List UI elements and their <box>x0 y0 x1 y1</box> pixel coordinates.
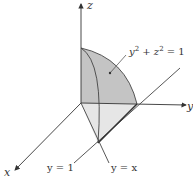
diagram-canvas: z y x y2 + z2 = 1 y = 1 y = x <box>0 0 193 178</box>
surface-label-dot <box>109 72 111 74</box>
x-axis-label: x <box>4 166 11 178</box>
surface-equation-label: y2 + z2 = 1 <box>128 45 185 57</box>
line-y1-label: y = 1 <box>46 162 74 173</box>
line-yx-label: y = x <box>110 162 137 173</box>
y-axis-label: y <box>186 100 193 113</box>
base-region <box>81 103 137 143</box>
z-axis-label: z <box>86 0 93 12</box>
x-axis <box>15 103 81 170</box>
